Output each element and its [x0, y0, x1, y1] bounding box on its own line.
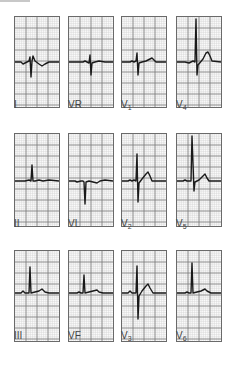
lead-label: VR	[68, 99, 82, 110]
lead-label: V5	[176, 218, 187, 230]
ecg-strip	[68, 16, 114, 108]
lead-vl: VL	[68, 133, 114, 245]
lead-label: VL	[68, 218, 80, 229]
lead-label: V6	[176, 330, 187, 342]
lead-label: V4	[176, 99, 187, 111]
lead-label: V3	[121, 330, 132, 342]
lead-iii: III	[14, 250, 60, 360]
lead-label: III	[14, 330, 22, 341]
ecg-strip	[176, 16, 222, 108]
lead-v1: V1	[121, 16, 167, 126]
lead-label: V2	[121, 218, 132, 230]
lead-v3: V3	[121, 250, 167, 360]
lead-v5: V5	[176, 133, 222, 245]
ecg-strip	[68, 250, 114, 342]
ecg-strip	[14, 133, 60, 227]
lead-v6: V6	[176, 250, 222, 360]
ecg-strip	[14, 250, 60, 342]
ecg-strip	[121, 133, 167, 227]
ecg-strip	[176, 133, 222, 227]
ecg-strip	[176, 250, 222, 342]
lead-label: VF	[68, 330, 81, 341]
lead-vr: VR	[68, 16, 114, 126]
ecg-strip	[14, 16, 60, 108]
lead-ii: II	[14, 133, 60, 245]
ecg-strip	[68, 133, 114, 227]
ecg-strip	[121, 16, 167, 108]
lead-vf: VF	[68, 250, 114, 360]
lead-v2: V2	[121, 133, 167, 245]
lead-i: I	[14, 16, 60, 126]
lead-label: I	[14, 99, 17, 110]
lead-label: V1	[121, 99, 132, 111]
lead-v4: V4	[176, 16, 222, 126]
top-bar	[0, 0, 30, 2]
ecg-strip	[121, 250, 167, 342]
lead-label: II	[14, 218, 20, 229]
